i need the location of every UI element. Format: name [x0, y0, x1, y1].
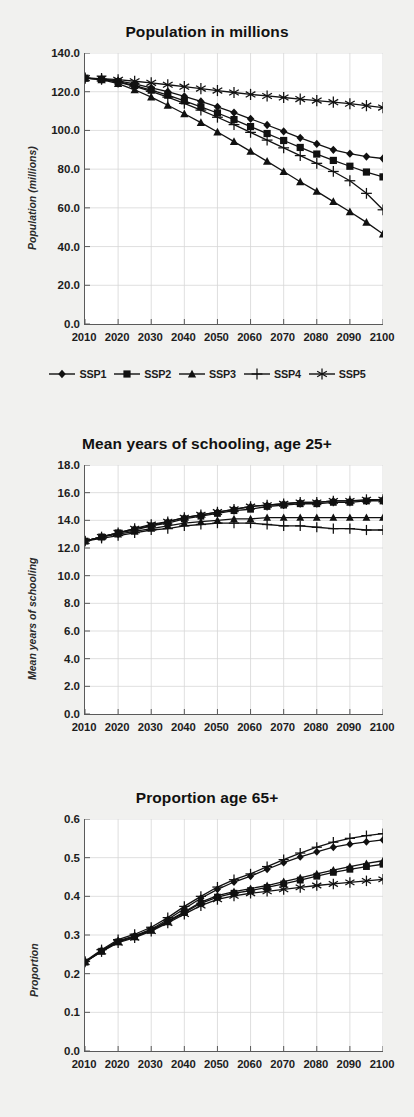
x-tick-label: 2080 [303, 1058, 328, 1070]
triangle-marker [346, 207, 354, 215]
diamond-marker [247, 115, 255, 123]
plot-area-schooling [84, 465, 383, 715]
x-tick-label: 2040 [171, 721, 196, 733]
triangle-marker [280, 167, 288, 175]
x-tick-label: 2030 [138, 721, 163, 733]
diamond-marker [313, 140, 321, 148]
x-tick-label: 2050 [204, 1058, 229, 1070]
y-tick-label: 14.0 [58, 514, 80, 526]
legend-item-ssp5[interactable]: SSP5 [308, 367, 366, 381]
legend-item-ssp2[interactable]: SSP2 [113, 367, 171, 381]
x-tick-label: 2100 [370, 721, 395, 733]
chart-title-proportion: Proportion age 65+ [0, 789, 414, 807]
plus-marker [278, 142, 289, 153]
diamond-marker [280, 127, 288, 135]
x-tick-label: 2050 [204, 721, 229, 733]
x-tick-label: 2100 [370, 331, 395, 343]
y-tick-label: 0.6 [64, 813, 80, 825]
x-axis-ticks-population: 2010202020302040205020602070208020902100 [84, 331, 382, 347]
x-tick-label: 2010 [72, 721, 97, 733]
y-tick-label: 8.0 [64, 597, 80, 609]
triangle-marker [362, 218, 370, 226]
square-marker [297, 144, 304, 151]
legend-label: SSP1 [79, 368, 106, 380]
y-tick-label: 0.1 [64, 1006, 80, 1018]
diamond-marker [379, 154, 383, 162]
diamond-marker [48, 367, 76, 381]
legend-item-ssp4[interactable]: SSP4 [243, 367, 301, 381]
plot-area-proportion [84, 819, 383, 1052]
triangle-marker [197, 118, 205, 126]
y-axis-label-proportion: Proportion [28, 943, 40, 997]
legend-item-ssp1[interactable]: SSP1 [48, 367, 106, 381]
diamond-marker [363, 152, 371, 160]
square-marker [379, 173, 383, 180]
legend-label: SSP3 [209, 368, 236, 380]
x-tick-label: 2020 [105, 331, 130, 343]
y-tick-label: 6.0 [64, 625, 80, 637]
x-tick-label: 2090 [337, 1058, 362, 1070]
y-tick-label: 0.3 [64, 929, 80, 941]
diamond-marker [330, 146, 338, 154]
y-tick-label: 20.0 [58, 279, 80, 291]
y-tick-label: 10.0 [58, 570, 80, 582]
plus-marker [345, 524, 355, 534]
square-marker [124, 370, 131, 377]
plus-marker [295, 150, 306, 161]
y-tick-label: 4.0 [64, 653, 80, 665]
x-tick-label: 2070 [270, 721, 295, 733]
plus-marker [311, 158, 322, 169]
x-tick-label: 2090 [337, 721, 362, 733]
y-tick-label: 80.0 [58, 163, 80, 175]
x-tick-label: 2020 [105, 1058, 130, 1070]
plus-marker [328, 837, 338, 847]
y-tick-label: 0.0 [64, 318, 80, 330]
chart-panel-schooling: Mean years of schooling, age 25+ Mean ye… [0, 395, 414, 745]
legend-label: SSP5 [339, 368, 366, 380]
legend-label: SSP2 [144, 368, 171, 380]
plus-marker [243, 367, 271, 381]
plus-marker [344, 175, 355, 186]
plus-marker [262, 519, 272, 529]
diamond-marker [263, 121, 271, 129]
x-tick-label: 2050 [204, 331, 229, 343]
triangle-marker [329, 197, 337, 205]
x-tick-label: 2070 [270, 331, 295, 343]
x-tick-label: 2040 [171, 1058, 196, 1070]
x-tick-label: 2010 [72, 331, 97, 343]
triangle-marker [213, 128, 221, 136]
x-tick-label: 2060 [237, 331, 262, 343]
y-tick-label: 40.0 [58, 241, 80, 253]
plus-marker [361, 831, 371, 841]
square-marker [313, 150, 320, 157]
plus-marker [195, 105, 206, 116]
asterisk-marker [308, 367, 336, 381]
x-tick-label: 2080 [303, 721, 328, 733]
x-tick-label: 2080 [303, 331, 328, 343]
legend-item-ssp3[interactable]: SSP3 [178, 367, 236, 381]
chart-panel-proportion: Proportion age 65+ Proportion 0.00.10.20… [0, 745, 414, 1117]
plus-marker [378, 525, 383, 535]
x-tick-label: 2020 [105, 721, 130, 733]
square-marker [346, 163, 353, 170]
x-tick-label: 2030 [138, 1058, 163, 1070]
triangle-marker [178, 367, 206, 381]
y-tick-label: 12.0 [58, 542, 80, 554]
plus-marker [262, 135, 273, 146]
plus-marker [279, 521, 289, 531]
x-tick-label: 2030 [138, 331, 163, 343]
y-tick-label: 0.2 [64, 968, 80, 980]
plus-marker [252, 369, 263, 380]
chart-panel-population: Population in millions Population (milli… [0, 0, 414, 395]
x-tick-label: 2040 [171, 331, 196, 343]
triangle-marker [180, 109, 188, 117]
plus-marker [295, 848, 305, 858]
plus-marker [345, 833, 355, 843]
chart-title-population: Population in millions [0, 23, 414, 41]
y-tick-label: 140.0 [51, 47, 80, 59]
y-axis-label-schooling: Mean years of schooling [26, 557, 38, 680]
diamond-marker [59, 370, 67, 378]
plus-marker [279, 855, 289, 865]
triangle-marker [313, 187, 321, 195]
plus-marker [295, 521, 305, 531]
